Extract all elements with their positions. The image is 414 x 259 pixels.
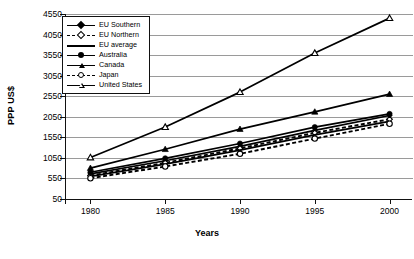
gridline (66, 137, 413, 138)
y-tick-label: 1550 (43, 132, 62, 142)
x-tick-label: 1990 (231, 206, 250, 216)
legend-label: Australia (96, 50, 127, 60)
legend-label: Japan (96, 70, 119, 80)
x-tick-mark (315, 199, 316, 204)
chart-legend: EU SouthernEU NorthernEU averageAustrali… (62, 16, 150, 94)
x-tick-label: 1995 (305, 206, 324, 216)
legend-item-united-states[interactable]: United States (66, 80, 146, 90)
x-axis-title: Years (0, 228, 414, 238)
legend-label: EU Southern (96, 20, 140, 30)
gridline (66, 178, 413, 179)
legend-line-icon (67, 45, 95, 47)
y-tick-label: 2050 (43, 112, 62, 122)
legend-marker-circle-filled-icon (78, 52, 84, 58)
legend-swatch (66, 80, 96, 90)
y-tick-label: 3050 (43, 71, 62, 81)
gridline (66, 158, 413, 159)
plot-area-right-extension (375, 14, 412, 200)
legend-label: EU average (96, 40, 137, 50)
legend-item-australia[interactable]: Australia (66, 50, 146, 60)
legend-marker-triangle-open-icon (79, 83, 85, 88)
legend-marker-triangle-filled-icon (79, 63, 85, 68)
x-tick-mark (65, 199, 66, 204)
gridline (66, 14, 413, 15)
legend-item-japan[interactable]: Japan (66, 70, 146, 80)
gridline (66, 117, 413, 118)
y-tick-label: 50 (53, 194, 62, 204)
y-tick-label: 2550 (43, 91, 62, 101)
legend-swatch (66, 50, 96, 60)
legend-swatch (66, 70, 96, 80)
legend-item-canada[interactable]: Canada (66, 60, 146, 70)
legend-swatch (66, 30, 96, 40)
legend-marker-diamond-filled-icon (77, 21, 85, 29)
legend-swatch (66, 20, 96, 30)
legend-label: United States (96, 80, 142, 90)
y-axis-ticks: 5055010501550205025503050355040504550 (0, 0, 62, 213)
legend-item-eu-northern[interactable]: EU Northern (66, 30, 146, 40)
chart-figure: PPP US$ 50550105015502050255030503550405… (0, 0, 414, 259)
x-tick-mark (240, 199, 241, 204)
gridline (66, 96, 413, 97)
legend-swatch (66, 40, 96, 50)
legend-marker-diamond-open-icon (77, 31, 85, 39)
legend-item-eu-southern[interactable]: EU Southern (66, 20, 146, 30)
x-tick-label: 1980 (81, 206, 100, 216)
legend-swatch (66, 60, 96, 70)
x-tick-label: 1985 (156, 206, 175, 216)
y-tick-label: 4550 (43, 9, 62, 19)
x-tick-mark (165, 199, 166, 204)
y-tick-label: 1050 (43, 153, 62, 163)
x-tick-mark (390, 199, 391, 204)
legend-item-eu-average[interactable]: EU average (66, 40, 146, 50)
x-tick-label: 2000 (380, 206, 399, 216)
legend-marker-circle-open-icon (78, 72, 84, 78)
y-tick-label: 550 (48, 173, 62, 183)
x-tick-mark (90, 199, 91, 204)
y-tick-label: 4050 (43, 30, 62, 40)
legend-label: EU Northern (96, 30, 139, 40)
y-tick-label: 3550 (43, 50, 62, 60)
legend-label: Canada (96, 60, 124, 70)
